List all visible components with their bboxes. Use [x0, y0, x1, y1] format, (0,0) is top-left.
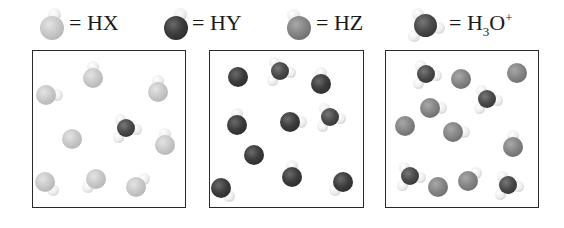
hz-molecule [395, 116, 415, 136]
hydronium-molecule [417, 65, 435, 83]
legend-hz: = HZ [282, 2, 402, 42]
hy-molecule [228, 67, 248, 87]
hx-molecule [83, 68, 103, 88]
legend-label-hz: = HZ [316, 10, 363, 36]
hz-molecule [458, 171, 478, 191]
hy-molecule [211, 178, 231, 198]
label-superscript: + [505, 10, 512, 25]
hz-molecule [503, 137, 523, 157]
hydronium-molecule [401, 167, 419, 185]
hy-molecule [227, 115, 247, 135]
legend-label-hy: = HY [192, 10, 242, 36]
legend-hy: = HY [162, 2, 282, 42]
legend-label-h3o: = H3O+ [449, 10, 513, 40]
hy-molecule [244, 145, 264, 165]
hydronium-molecule [478, 90, 496, 108]
hz-molecule [420, 98, 440, 118]
label-part: = H [449, 10, 483, 35]
hx-molecule [36, 85, 56, 105]
hz-molecule [507, 63, 527, 83]
hz-molecule [428, 177, 448, 197]
hz-molecule [443, 122, 463, 142]
hx-molecule [86, 169, 106, 189]
legend-label-hx: = HX [69, 10, 119, 36]
hydronium-molecule [117, 119, 135, 137]
hy-molecule [311, 74, 331, 94]
hy-molecule [333, 172, 353, 192]
hydronium-molecule [499, 176, 517, 194]
label-part: O [489, 10, 505, 35]
hy-molecule [280, 112, 300, 132]
legend-h3o: = H3O+ [406, 2, 556, 42]
hydronium-molecule [321, 108, 339, 126]
hx-molecule [126, 177, 146, 197]
hy-molecule [282, 167, 302, 187]
hx-molecule [148, 82, 168, 102]
hz-molecule [451, 69, 471, 89]
legend-hx: = HX [38, 2, 158, 42]
hx-molecule [155, 135, 175, 155]
hx-molecule [62, 129, 82, 149]
hx-molecule [35, 172, 55, 192]
hydronium-molecule [271, 62, 289, 80]
